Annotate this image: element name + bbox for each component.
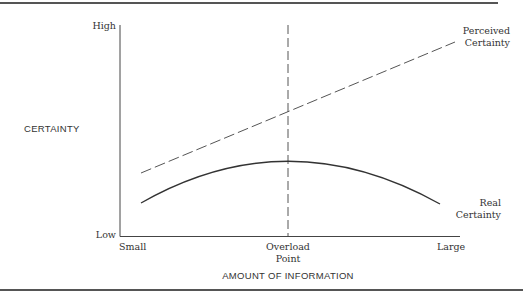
- perceived-certainty-line: [141, 42, 455, 173]
- y-low-label: Low: [78, 229, 116, 240]
- x-axis-title: AMOUNT OF INFORMATION: [211, 270, 365, 281]
- y-axis-title: CERTAINTY: [24, 123, 80, 134]
- x-large-label: Large: [437, 241, 465, 252]
- real-certainty-curve: [141, 161, 440, 204]
- x-overload-label-line1: Overload: [258, 241, 318, 252]
- real-certainty-label-line2: Certainty: [455, 209, 501, 220]
- perceived-certainty-label-line1: Perceived: [455, 25, 510, 36]
- x-overload-label-line2: Point: [258, 253, 318, 264]
- y-high-label: High: [78, 20, 116, 31]
- real-certainty-label-line1: Real: [455, 197, 501, 208]
- perceived-certainty-label-line2: Certainty: [455, 37, 510, 48]
- x-small-label: Small: [119, 241, 146, 252]
